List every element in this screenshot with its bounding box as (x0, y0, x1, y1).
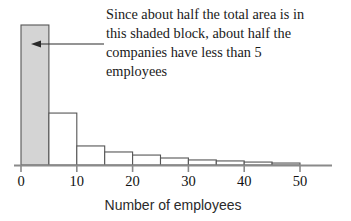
histogram-chart: 01020304050 Since about half the total a… (0, 0, 351, 221)
annotation-line-2: this shaded block, about half the (106, 25, 291, 41)
x-axis-tick-label: 30 (181, 173, 196, 189)
histogram-bar (161, 158, 189, 165)
histogram-bar (216, 161, 244, 165)
histogram-bar (77, 146, 105, 165)
x-axis-tick-label: 50 (293, 173, 308, 189)
x-axis-tick-label: 20 (125, 173, 140, 189)
histogram-bar (105, 152, 133, 165)
histogram-bar (49, 113, 77, 165)
annotation-line-3: companies have less than 5 (106, 44, 262, 60)
x-axis-title: Number of employees (105, 197, 242, 213)
histogram-figure: 01020304050 Since about half the total a… (0, 0, 351, 221)
x-axis-tick-label: 10 (70, 173, 85, 189)
x-axis-ticks (21, 166, 300, 172)
histogram-bar (188, 160, 216, 165)
histogram-bar (133, 155, 161, 165)
annotation-line-1: Since about half the total area is in (106, 6, 304, 22)
x-axis-tick-labels: 01020304050 (17, 173, 307, 189)
x-axis-tick-label: 0 (17, 173, 24, 189)
annotation-line-4: employees (106, 63, 168, 79)
histogram-bar-highlighted (21, 25, 49, 165)
x-axis-tick-label: 40 (237, 173, 252, 189)
